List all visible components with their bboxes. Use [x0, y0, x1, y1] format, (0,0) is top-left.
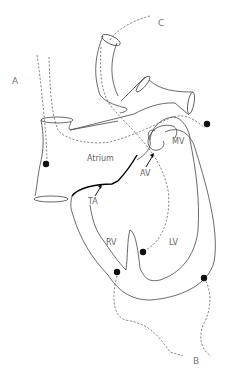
label-C: C	[158, 18, 164, 28]
path-B1	[114, 276, 183, 356]
path-C	[110, 16, 150, 40]
dot-RV	[114, 269, 120, 275]
label-mv: MV	[172, 137, 185, 146]
dot-B	[201, 275, 207, 281]
heart-outline	[71, 117, 216, 300]
label-B: B	[193, 356, 199, 366]
dashed-paths	[37, 16, 211, 356]
aorta	[70, 32, 196, 130]
label-rv: RV	[106, 238, 117, 247]
path-LV	[101, 47, 169, 251]
path-A	[37, 55, 47, 168]
electrode-dots	[43, 121, 210, 281]
dot-LV	[140, 249, 146, 255]
label-ta: TA	[87, 197, 98, 206]
dot-C	[204, 121, 210, 127]
label-A: A	[12, 76, 19, 86]
heart-diagram: C A Atrium MV AV TA RV LV B	[0, 0, 231, 372]
label-lv: LV	[169, 238, 179, 247]
label-av: AV	[140, 169, 151, 178]
dot-A	[43, 161, 49, 167]
path-B2	[201, 278, 211, 356]
label-atrium: Atrium	[87, 154, 114, 163]
